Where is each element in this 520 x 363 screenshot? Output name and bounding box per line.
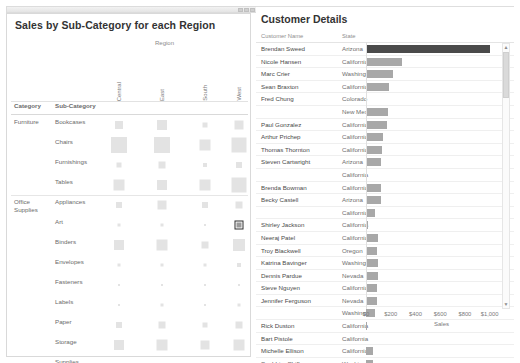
sales-bar[interactable] bbox=[366, 133, 383, 141]
customer-row[interactable]: New Mexico bbox=[256, 106, 514, 119]
customer-row[interactable]: Neeraj PatelCalifornia bbox=[256, 232, 514, 245]
heatmap-cell[interactable] bbox=[203, 323, 208, 328]
customer-row[interactable]: Dennis PardueNevada bbox=[256, 270, 514, 283]
sales-bar[interactable] bbox=[366, 209, 375, 217]
heatmap-cell[interactable] bbox=[114, 240, 124, 250]
customer-row[interactable]: Steve NguyenCalifornia bbox=[256, 282, 514, 295]
heatmap-cell[interactable] bbox=[157, 120, 167, 130]
heatmap-cell[interactable] bbox=[237, 263, 241, 267]
heatmap-cell[interactable] bbox=[158, 201, 167, 210]
heatmap-cell[interactable] bbox=[157, 180, 167, 190]
heatmap-cell[interactable] bbox=[117, 163, 122, 168]
heatmap-cell[interactable] bbox=[115, 121, 123, 129]
heatmap-cell[interactable] bbox=[116, 322, 122, 328]
heatmap-cell[interactable] bbox=[203, 123, 208, 128]
heatmap-cell[interactable] bbox=[118, 264, 121, 267]
heatmap-cell[interactable] bbox=[238, 304, 241, 307]
heatmap-cell[interactable] bbox=[201, 341, 210, 350]
heatmap-cell[interactable] bbox=[234, 340, 245, 351]
heatmap-cell[interactable] bbox=[159, 322, 166, 329]
scrollbar-thumb[interactable] bbox=[503, 52, 509, 98]
customer-row[interactable]: Shirley JacksonCalifornia bbox=[256, 219, 514, 232]
heatmap-cell[interactable] bbox=[237, 223, 242, 228]
heatmap-row: Supplies bbox=[7, 355, 252, 363]
heatmap-cell[interactable] bbox=[118, 284, 120, 286]
sales-bar[interactable] bbox=[366, 284, 377, 292]
sales-bar[interactable] bbox=[366, 121, 387, 129]
heatmap-cell[interactable] bbox=[236, 322, 243, 329]
heatmap-cell[interactable] bbox=[159, 162, 166, 169]
heatmap-cell[interactable] bbox=[204, 284, 206, 286]
heatmap-cell[interactable] bbox=[114, 340, 124, 350]
heatmap-cell[interactable] bbox=[232, 138, 247, 153]
heatmap-cell[interactable] bbox=[118, 224, 121, 227]
customer-row[interactable]: Nicole HansenCalifornia bbox=[256, 56, 514, 69]
scroll-up-arrow-icon[interactable]: ▲ bbox=[503, 44, 509, 51]
heatmap-cell[interactable] bbox=[200, 180, 211, 191]
customer-row[interactable]: Marc CrierWashington bbox=[256, 68, 514, 81]
heatmap-cell[interactable] bbox=[235, 121, 244, 130]
customer-row[interactable]: Thomas ThorntonCalifornia bbox=[256, 144, 514, 157]
heatmap-cell[interactable] bbox=[161, 304, 164, 307]
heatmap-cell[interactable] bbox=[236, 202, 243, 209]
heatmap-cell[interactable] bbox=[204, 224, 206, 226]
sales-bar[interactable] bbox=[366, 158, 381, 166]
customer-row[interactable]: Becky CastellArizona bbox=[256, 194, 514, 207]
sales-bar[interactable] bbox=[366, 58, 402, 66]
sales-bar[interactable] bbox=[366, 234, 378, 242]
customer-row[interactable]: Fred ChungColorado bbox=[256, 93, 514, 106]
customer-row[interactable]: Steven CartwrightArizona bbox=[256, 156, 514, 169]
sales-bar[interactable] bbox=[366, 196, 381, 204]
sales-bar[interactable] bbox=[366, 108, 388, 116]
heatmap-cell[interactable] bbox=[157, 340, 168, 351]
heatmap-cell[interactable] bbox=[161, 264, 164, 267]
customer-row[interactable]: California bbox=[256, 169, 514, 182]
heatmap-cell[interactable] bbox=[118, 304, 120, 306]
sales-bar[interactable] bbox=[366, 83, 389, 91]
sales-bar[interactable] bbox=[366, 259, 378, 267]
heatmap-cell[interactable] bbox=[204, 304, 206, 306]
customer-row[interactable]: Paul GonzalezCalifornia bbox=[256, 119, 514, 132]
sales-bar[interactable] bbox=[366, 272, 378, 280]
heatmap-cell[interactable] bbox=[204, 264, 207, 267]
vertical-scrollbar[interactable]: ▲ ▼ bbox=[502, 43, 510, 309]
heatmap-cell[interactable] bbox=[114, 180, 125, 191]
scroll-down-arrow-icon[interactable]: ▼ bbox=[503, 301, 509, 308]
minimize-button[interactable] bbox=[238, 8, 243, 12]
customer-row[interactable]: Arthur PrichepCalifornia bbox=[256, 131, 514, 144]
customer-row[interactable]: Brendan SweedArizona bbox=[256, 43, 514, 56]
sales-bar[interactable] bbox=[366, 184, 381, 192]
maximize-button[interactable] bbox=[244, 8, 249, 12]
sales-bar[interactable] bbox=[366, 347, 373, 355]
heatmap-cell[interactable] bbox=[236, 162, 242, 168]
heatmap-cell[interactable] bbox=[200, 140, 211, 151]
heatmap-cell[interactable] bbox=[238, 284, 240, 286]
heatmap-cell[interactable] bbox=[154, 137, 170, 153]
heatmap-cell[interactable] bbox=[116, 202, 122, 208]
customer-row[interactable]: Troy BlackwellOregon bbox=[256, 245, 514, 258]
customer-row[interactable]: Katrina BavingerWashington bbox=[256, 257, 514, 270]
heatmap-cell[interactable] bbox=[203, 163, 207, 167]
sales-bar[interactable] bbox=[366, 70, 393, 78]
close-button[interactable] bbox=[250, 8, 255, 12]
customer-row[interactable]: Sean BraxtonCalifornia bbox=[256, 81, 514, 94]
heatmap-cell[interactable] bbox=[233, 239, 245, 251]
heatmap-cell[interactable] bbox=[202, 202, 208, 208]
customer-row[interactable]: Saphhira ShifleyWashington bbox=[256, 358, 514, 363]
customer-row[interactable]: Jennifer FergusonNevada bbox=[256, 295, 514, 308]
customer-row[interactable]: Michelle EllisonCalifornia bbox=[256, 345, 514, 358]
sales-bar[interactable] bbox=[366, 297, 377, 305]
window-title-bar[interactable] bbox=[6, 6, 258, 13]
customer-row[interactable]: Brenda BowmanCalifornia bbox=[256, 182, 514, 195]
sales-bar[interactable] bbox=[366, 247, 377, 255]
heatmap-cell[interactable] bbox=[232, 178, 247, 193]
heatmap-cell[interactable] bbox=[111, 137, 127, 153]
customer-rows[interactable]: Brendan SweedArizonaNicole HansenCalifor… bbox=[256, 42, 514, 309]
sales-bar[interactable] bbox=[366, 146, 382, 154]
heatmap-cell[interactable] bbox=[161, 224, 164, 227]
heatmap-cell[interactable] bbox=[157, 240, 168, 251]
heatmap-cell[interactable] bbox=[161, 284, 163, 286]
sales-bar[interactable] bbox=[366, 45, 490, 53]
heatmap-cell[interactable] bbox=[202, 242, 209, 249]
customer-row[interactable]: California bbox=[256, 207, 514, 220]
